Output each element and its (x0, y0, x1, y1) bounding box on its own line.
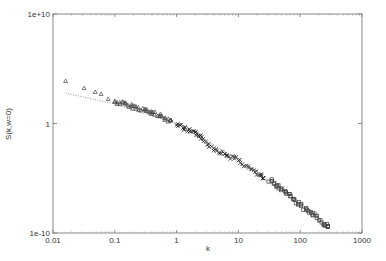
data-series (64, 79, 330, 228)
plot-frame (53, 14, 362, 233)
y-tick-label: 1e-10 (30, 229, 51, 238)
y-axis-label: S(k,w=0) (4, 108, 13, 140)
x-axis-label: k (206, 244, 211, 253)
data-point (99, 92, 103, 96)
y-tick-label: 1 (46, 120, 51, 129)
x-tick-label: 10 (234, 236, 243, 245)
x-tick-label: 0.1 (109, 236, 121, 245)
y-tick-label: 1e+10 (28, 10, 51, 19)
data-point (82, 86, 86, 90)
x-tick-label: 100 (294, 236, 308, 245)
x-tick-label: 1 (174, 236, 179, 245)
data-point (64, 79, 68, 83)
data-point (106, 97, 110, 101)
x-axis-ticks: 0.010.11101001000 (45, 14, 371, 245)
y-axis-ticks: 1e+1011e-10 (28, 10, 362, 238)
x-tick-label: 1000 (353, 236, 371, 245)
data-point (153, 110, 157, 114)
fit-line (66, 93, 328, 226)
data-point (93, 90, 97, 94)
chart-canvas: 0.010.11101001000 1e+1011e-10 k S(k,w=0) (0, 0, 386, 261)
